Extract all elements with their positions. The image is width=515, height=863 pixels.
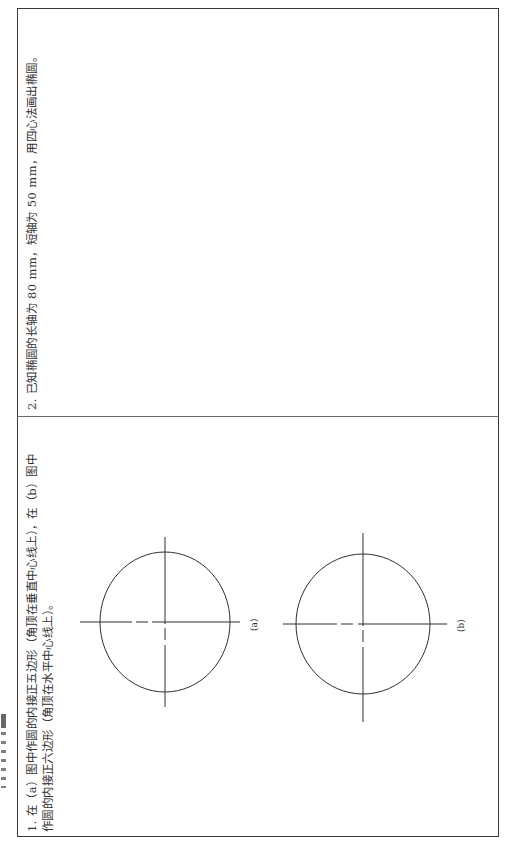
figure-a xyxy=(80,537,240,707)
figure-label-b: (b) xyxy=(456,619,466,632)
figures-canvas xyxy=(0,0,515,863)
worksheet-page: 1. 在（a）图中作圆的内接正五边形（角顶在垂直中心线上），在（b）图中 作圆的… xyxy=(0,0,515,863)
figure-b xyxy=(283,533,447,722)
figure-label-a: (a) xyxy=(249,619,259,631)
